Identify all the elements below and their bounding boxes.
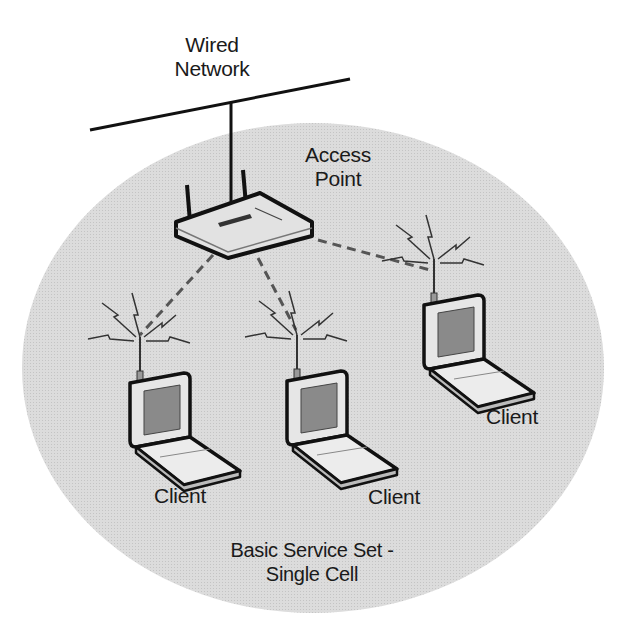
wired-network-label: Wired Network xyxy=(162,33,262,81)
wired-network-label-line2: Network xyxy=(162,57,262,81)
access-point-label: Access Point xyxy=(295,143,381,191)
client-label-2: Client xyxy=(354,485,434,509)
cell-label-line2: Single Cell xyxy=(212,562,412,586)
client-label-3: Client xyxy=(472,405,552,429)
cell-label: Basic Service Set - Single Cell xyxy=(212,538,412,586)
cell-label-line1: Basic Service Set - xyxy=(212,538,412,562)
wired-network-label-line1: Wired xyxy=(162,33,262,57)
access-point-label-line1: Access xyxy=(295,143,381,167)
diagram-canvas xyxy=(0,0,637,631)
wired-network-line xyxy=(90,79,350,130)
client-label-1: Client xyxy=(140,484,220,508)
access-point-label-line2: Point xyxy=(295,167,381,191)
